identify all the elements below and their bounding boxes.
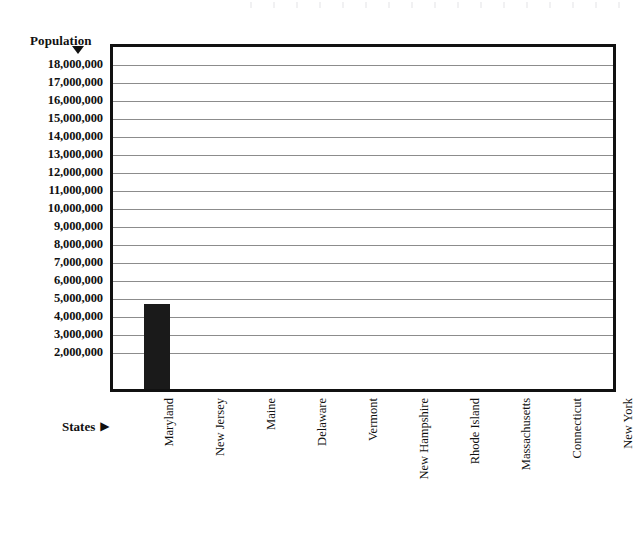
y-axis-tick-label: 6,000,000 — [0, 274, 103, 287]
gridline — [113, 191, 613, 192]
gridline — [113, 65, 613, 66]
x-axis-tick-label: New York — [621, 398, 635, 518]
x-axis-tick-label: Massachusetts — [519, 398, 533, 518]
gridline — [113, 83, 613, 84]
y-axis-tick-label: 2,000,000 — [0, 346, 103, 359]
gridline — [113, 353, 613, 354]
gridline — [113, 137, 613, 138]
x-axis-title: States▶ — [62, 419, 109, 435]
y-axis-tick-label: 7,000,000 — [0, 256, 103, 269]
x-axis-tick-label: Delaware — [315, 398, 329, 518]
gridline — [113, 335, 613, 336]
gridline — [113, 101, 613, 102]
scan-artifact — [250, 2, 640, 8]
gridline — [113, 119, 613, 120]
gridline — [113, 299, 613, 300]
x-axis-tick-label: New Hampshire — [417, 398, 431, 518]
bar-chart-figure: Population 18,000,00017,000,00016,000,00… — [0, 0, 640, 541]
y-axis-tick-labels: 18,000,00017,000,00016,000,00015,000,000… — [0, 44, 103, 392]
y-axis-tick-label: 12,000,000 — [0, 166, 103, 179]
y-axis-tick-label: 4,000,000 — [0, 310, 103, 323]
y-axis-tick-label: 13,000,000 — [0, 148, 103, 161]
x-axis-tick-label: Vermont — [366, 398, 380, 518]
y-axis-tick-label: 14,000,000 — [0, 130, 103, 143]
y-axis-tick-label: 17,000,000 — [0, 76, 103, 89]
x-axis-arrow-icon: ▶ — [100, 420, 109, 433]
plot-area — [110, 44, 616, 392]
y-axis-tick-label: 15,000,000 — [0, 112, 103, 125]
y-axis-tick-label: 5,000,000 — [0, 292, 103, 305]
y-axis-tick-label: 18,000,000 — [0, 58, 103, 71]
x-axis-tick-labels: MarylandNew JerseyMaineDelawareVermontNe… — [110, 398, 616, 528]
x-axis-tick-label: New Jersey — [213, 398, 227, 518]
gridline — [113, 263, 613, 264]
gridline — [113, 317, 613, 318]
gridline — [113, 209, 613, 210]
gridline — [113, 227, 613, 228]
y-axis-tick-label: 9,000,000 — [0, 220, 103, 233]
x-axis-tick-label: Maine — [264, 398, 278, 518]
y-axis-tick-label: 8,000,000 — [0, 238, 103, 251]
x-axis-tick-label: Maryland — [162, 398, 176, 518]
gridline — [113, 155, 613, 156]
y-axis-tick-label: 3,000,000 — [0, 328, 103, 341]
x-axis-tick-label: Rhode Island — [468, 398, 482, 518]
y-axis-tick-label: 16,000,000 — [0, 94, 103, 107]
y-axis-tick-label: 10,000,000 — [0, 202, 103, 215]
gridline — [113, 173, 613, 174]
bar — [144, 304, 170, 389]
x-axis-tick-label: Connecticut — [570, 398, 584, 518]
y-axis-tick-label: 11,000,000 — [0, 184, 103, 197]
x-axis-title-label: States — [62, 419, 95, 434]
gridline — [113, 245, 613, 246]
gridline — [113, 281, 613, 282]
